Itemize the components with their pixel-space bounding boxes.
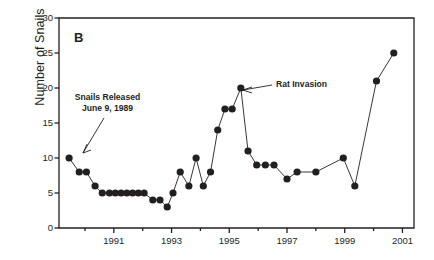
data-point — [83, 168, 90, 175]
y-tick-marks — [55, 18, 60, 228]
data-point — [149, 196, 156, 203]
data-point — [221, 105, 228, 112]
data-point — [262, 161, 269, 168]
annotation-arrows — [83, 85, 272, 153]
plot-canvas — [0, 0, 434, 260]
data-point — [185, 182, 192, 189]
figure-panel-b: Number of Snails B Snails Released June … — [0, 0, 434, 260]
data-point — [312, 168, 319, 175]
data-point — [237, 84, 244, 91]
data-point — [177, 168, 184, 175]
data-point — [214, 126, 221, 133]
data-points — [66, 49, 398, 210]
data-point — [390, 49, 397, 56]
data-polyline — [69, 53, 394, 207]
data-point — [294, 168, 301, 175]
x-tick-label: 1995 — [199, 235, 259, 246]
x-tick-label: 1993 — [142, 235, 202, 246]
y-tick-label: 20 — [15, 82, 53, 93]
y-tick-label: 25 — [15, 47, 53, 58]
data-point — [270, 161, 277, 168]
y-tick-label: 30 — [15, 12, 53, 23]
y-tick-label: 5 — [15, 187, 53, 198]
data-point — [141, 189, 148, 196]
data-point — [340, 154, 347, 161]
data-point — [229, 105, 236, 112]
y-tick-label: 15 — [15, 117, 53, 128]
y-tick-label: 0 — [15, 222, 53, 233]
x-tick-marks — [85, 228, 402, 233]
x-tick-label: 1991 — [84, 235, 144, 246]
x-tick-label: 2001 — [372, 235, 432, 246]
y-tick-label: 10 — [15, 152, 53, 163]
data-point — [169, 189, 176, 196]
data-point — [66, 154, 73, 161]
data-point — [253, 161, 260, 168]
data-point — [192, 154, 199, 161]
x-tick-label: 1997 — [257, 235, 317, 246]
data-point — [283, 175, 290, 182]
x-tick-label: 1999 — [315, 235, 375, 246]
data-point — [156, 196, 163, 203]
data-point — [91, 182, 98, 189]
data-point — [99, 189, 106, 196]
data-point — [164, 203, 171, 210]
data-point — [244, 147, 251, 154]
axes-frame — [59, 18, 414, 228]
series-line — [69, 53, 394, 207]
data-point — [373, 77, 380, 84]
data-point — [351, 182, 358, 189]
data-point — [207, 168, 214, 175]
data-point — [76, 168, 83, 175]
data-point — [200, 182, 207, 189]
